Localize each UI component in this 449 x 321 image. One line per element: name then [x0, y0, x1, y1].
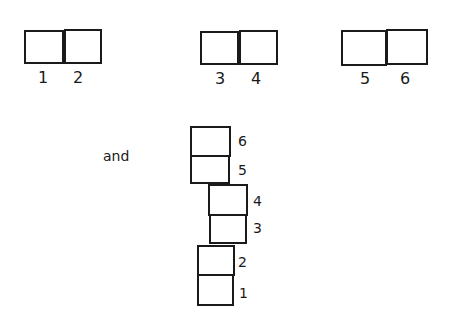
- stack-square-5: [190, 155, 230, 184]
- square-1: [24, 30, 64, 64]
- label-2: 2: [73, 70, 83, 86]
- square-2: [64, 29, 102, 64]
- stack-label-1: 1: [239, 285, 248, 301]
- label-6: 6: [400, 71, 410, 87]
- stack-square-1: [197, 274, 234, 306]
- label-3: 3: [215, 71, 225, 87]
- square-6: [386, 29, 428, 65]
- stack-label-3: 3: [253, 220, 262, 236]
- stack-square-2: [197, 245, 235, 276]
- label-1: 1: [38, 70, 48, 86]
- and-text: and: [103, 149, 129, 163]
- label-4: 4: [251, 71, 261, 87]
- stack-label-2: 2: [238, 254, 247, 270]
- stack-label-4: 4: [253, 193, 262, 209]
- stack-square-3: [209, 214, 247, 244]
- stack-label-5: 5: [238, 162, 247, 178]
- stack-square-6: [190, 126, 231, 157]
- stack-label-6: 6: [238, 133, 247, 149]
- square-4: [239, 30, 278, 65]
- stack-square-4: [208, 184, 248, 216]
- square-3: [200, 31, 239, 65]
- label-5: 5: [360, 71, 370, 87]
- square-5: [341, 30, 387, 66]
